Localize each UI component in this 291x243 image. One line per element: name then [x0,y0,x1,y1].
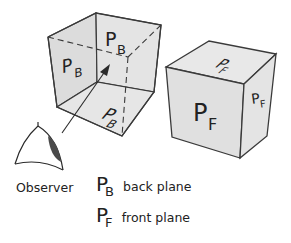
front-cube: P F P F P F [166,41,276,158]
legend-item-back-plane: PB back plane [96,174,191,195]
svg-text:F: F [208,115,217,134]
back-cube-right-face [96,13,161,92]
legend-symbol-sub: B [105,184,114,199]
svg-text:P: P [105,28,116,50]
observer-label: Observer [16,180,73,195]
legend-text: back plane [123,179,191,194]
observer-eye-icon [15,122,63,170]
pupil-icon [48,136,61,162]
svg-text:B: B [117,42,126,57]
svg-text:P: P [193,99,207,127]
legend-symbol-sub: F [105,215,112,230]
legend-item-front-plane: PF front plane [96,205,190,226]
legend-text: front plane [122,210,190,225]
